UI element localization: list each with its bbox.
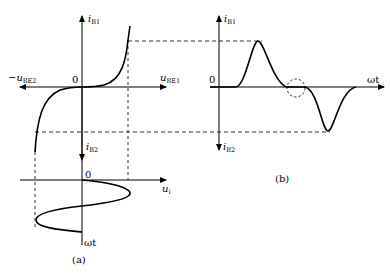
label-ib1-b: iB1 xyxy=(224,13,236,26)
label-wt-b: ωt xyxy=(367,74,379,85)
label-wt-a: ωt xyxy=(84,237,96,248)
crossover-distortion-circle xyxy=(287,79,305,97)
label-ib2-a: iB2 xyxy=(86,141,98,154)
label-ib2-b: iB2 xyxy=(223,141,235,154)
panel-b: iB1 iB2 0 ωt (b) xyxy=(209,13,384,184)
label-minus-ube2: −uBE2 xyxy=(8,72,37,85)
panel-a: iB1 iB2 uBE1 −uBE2 0 0 ui ωt (a) xyxy=(8,13,180,265)
origin-label-a: 0 xyxy=(72,74,78,85)
crossover-distortion-diagram: iB1 iB2 uBE1 −uBE2 0 0 ui ωt (a) iB1 iB2… xyxy=(0,0,390,276)
caption-b: (b) xyxy=(275,173,289,184)
origin-label-b: 0 xyxy=(209,74,215,85)
label-ib1-a: iB1 xyxy=(88,13,100,26)
output-current-waveform xyxy=(210,41,356,131)
label-ube1: uBE1 xyxy=(160,72,180,85)
caption-a: (a) xyxy=(72,254,86,265)
input-sine-wave xyxy=(36,180,130,232)
label-ui: ui xyxy=(162,183,171,196)
input-origin-label: 0 xyxy=(85,169,91,180)
